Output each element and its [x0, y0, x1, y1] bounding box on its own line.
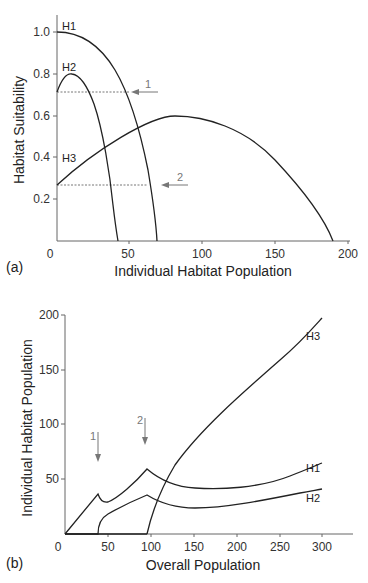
panel-b-curve-h2	[65, 489, 322, 534]
panel-b-curve-h3	[147, 318, 322, 534]
panel-b-arrow-2: 2	[137, 414, 148, 445]
panel-b: 200 150 100 50 0 50 100 150 200 250 300 …	[6, 308, 353, 573]
figure: 1.0 0.8 0.6 0.4 0.2 0 50 100 150 200 Ind…	[0, 0, 368, 583]
panel-a-xtick-0: 0	[47, 247, 54, 261]
panel-b-label-h1: H1	[306, 462, 320, 474]
panel-b-label-h3: H3	[306, 330, 320, 342]
arrow-down-icon	[95, 454, 101, 462]
panel-a-label: (a)	[6, 259, 23, 275]
panel-a: 1.0 0.8 0.6 0.4 0.2 0 50 100 150 200 Ind…	[6, 15, 358, 279]
panel-b-label-h2: H2	[306, 492, 320, 504]
panel-b-ytick-50: 50	[46, 472, 60, 486]
panel-b-x-axis-title: Overall Population	[146, 557, 260, 573]
panel-a-y-axis-title: Habitat Suitability	[11, 76, 27, 184]
panel-b-label: (b)	[6, 555, 23, 571]
panel-b-xtick-100: 100	[141, 540, 161, 554]
panel-a-xtick-200: 200	[338, 247, 358, 261]
panel-a-arrow-2: 2	[161, 171, 188, 188]
panel-b-y-ticks	[61, 315, 65, 479]
panel-b-y-axis-title: Individual Habitat Population	[19, 339, 35, 516]
panel-a-x-axis-title: Individual Habitat Population	[114, 263, 291, 279]
panel-a-xtick-150: 150	[265, 247, 285, 261]
panel-b-curve-h1	[65, 463, 322, 534]
svg-text:2: 2	[137, 414, 143, 426]
arrow-left-icon	[161, 182, 169, 188]
panel-b-xtick-300: 300	[312, 540, 332, 554]
panel-b-xtick-0: 0	[55, 540, 62, 554]
panel-a-ytick-0.8: 0.8	[33, 67, 50, 81]
panel-a-ytick-1.0: 1.0	[33, 25, 50, 39]
svg-text:1: 1	[90, 430, 96, 442]
panel-b-ytick-200: 200	[39, 308, 59, 322]
panel-a-label-h1: H1	[62, 20, 76, 32]
svg-text:2: 2	[177, 171, 183, 183]
panel-b-xtick-250: 250	[270, 540, 290, 554]
panel-b-arrow-1: 1	[90, 430, 101, 462]
panel-a-ytick-0.2: 0.2	[33, 192, 50, 206]
panel-b-xtick-150: 150	[184, 540, 204, 554]
panel-a-y-ticks	[53, 32, 57, 199]
panel-b-ytick-100: 100	[39, 417, 59, 431]
panel-a-label-h3: H3	[62, 152, 76, 164]
panel-a-ytick-0.6: 0.6	[33, 109, 50, 123]
panel-a-ytick-0.4: 0.4	[33, 150, 50, 164]
panel-a-xtick-100: 100	[192, 247, 212, 261]
panel-b-ytick-150: 150	[39, 363, 59, 377]
panel-b-xtick-50: 50	[101, 540, 115, 554]
panel-a-xtick-50: 50	[121, 247, 135, 261]
svg-text:1: 1	[145, 78, 151, 90]
panel-b-xtick-200: 200	[227, 540, 247, 554]
panel-a-curve-h3	[57, 116, 333, 241]
arrow-left-icon	[131, 89, 139, 95]
panel-a-label-h2: H2	[62, 61, 76, 73]
arrow-down-icon	[142, 437, 148, 445]
panel-a-arrow-1: 1	[131, 78, 158, 95]
